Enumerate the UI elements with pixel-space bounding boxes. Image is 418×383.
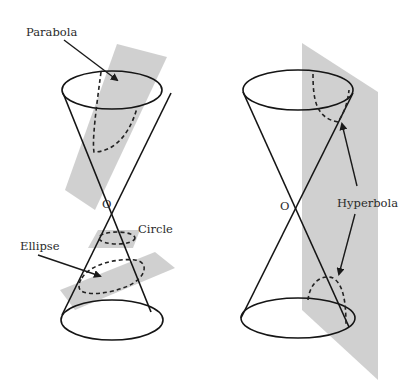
hyperbola-cutting-plane (302, 43, 378, 380)
right-vertex-label: O (280, 199, 289, 213)
ellipse-label: Ellipse (20, 239, 60, 253)
parabola-arrow (64, 40, 117, 80)
bottom-cone-rim (61, 300, 163, 340)
left-vertex-label: O (102, 197, 111, 211)
right-double-cone-figure: O Hyperbola (241, 43, 398, 380)
hyperbola-label: Hyperbola (337, 196, 398, 210)
left-double-cone-figure: Parabola O Circle Ellipse (20, 25, 175, 340)
ellipse-cutting-plane (60, 252, 175, 310)
circle-label: Circle (138, 222, 173, 236)
conic-sections-diagram: Parabola O Circle Ellipse O Hyperbola (0, 0, 418, 383)
parabola-cutting-plane (65, 44, 167, 210)
parabola-label: Parabola (26, 25, 77, 39)
